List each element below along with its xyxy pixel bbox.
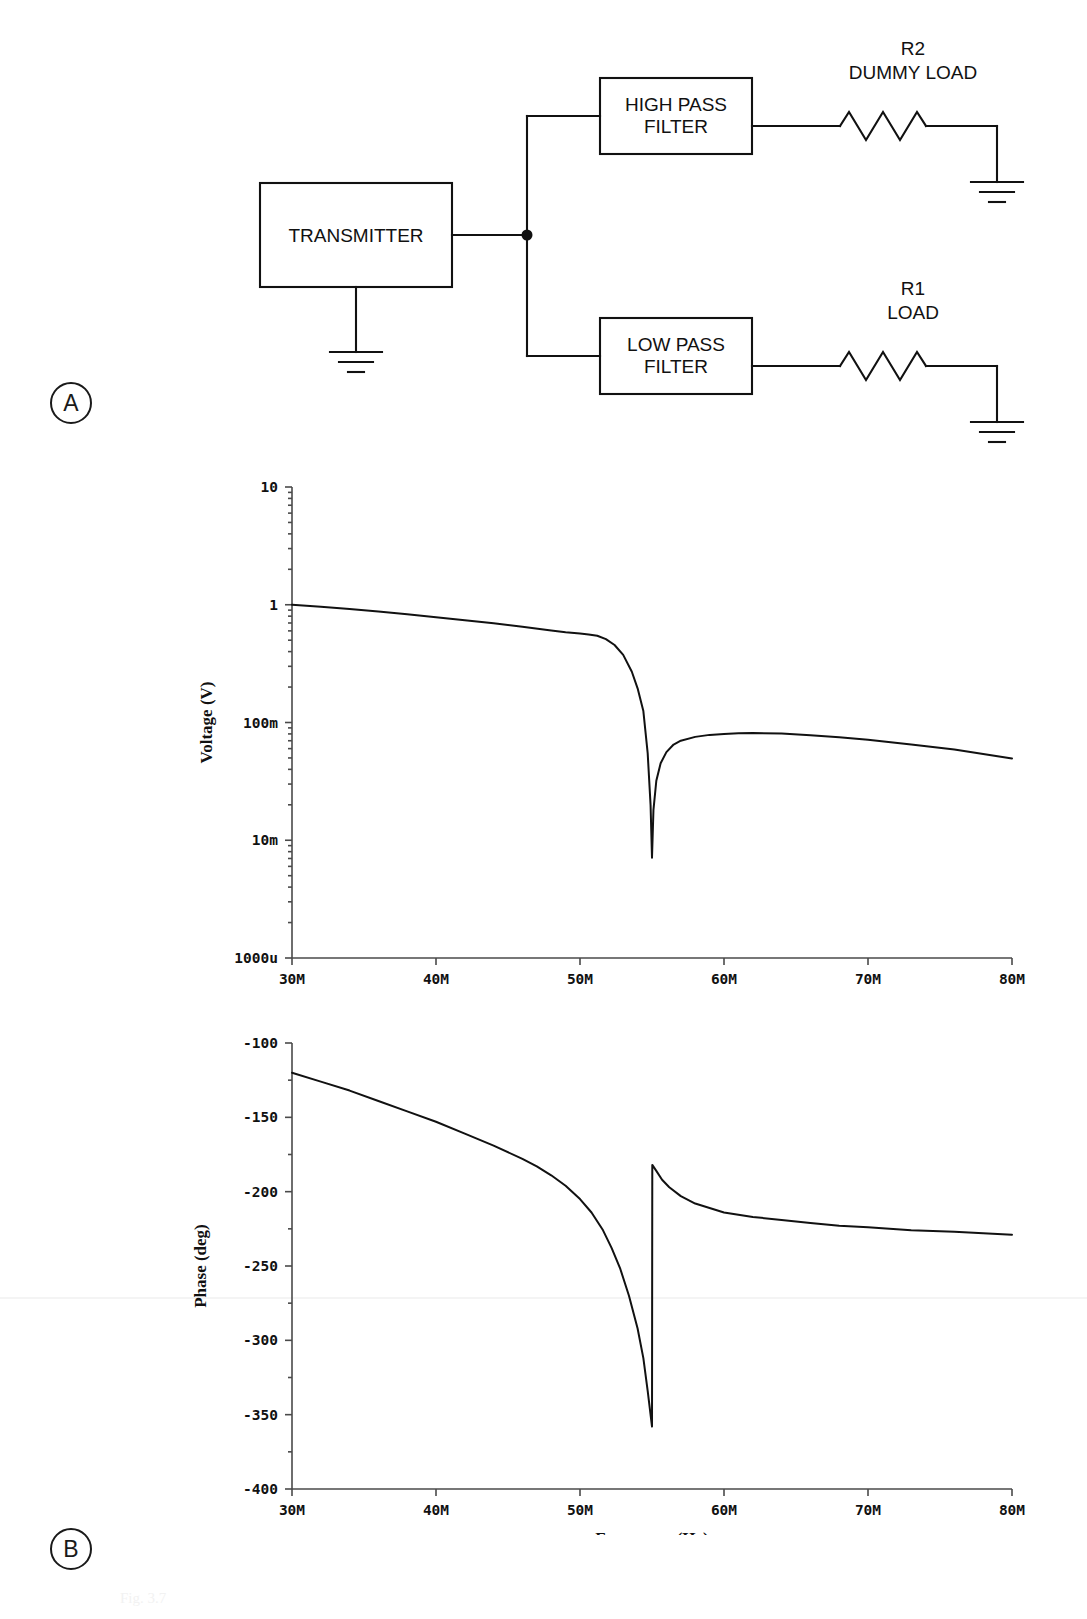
- y-tick-label: 1: [269, 597, 278, 613]
- data-curve-voltage: [292, 605, 1012, 858]
- panel-label-a: A: [50, 382, 92, 424]
- x-tick-label: 40M: [423, 971, 449, 987]
- r1-ground-symbol: [971, 422, 1023, 442]
- r1-designator-label: R1: [823, 278, 1003, 300]
- transmitter-ground-symbol: [330, 352, 382, 372]
- r1-resistor-symbol: [840, 352, 926, 380]
- figure-page: TRANSMITTER HIGH PASSFILTER LOW PASSFILT…: [0, 0, 1087, 1619]
- high-pass-filter-label: HIGH PASSFILTER: [600, 94, 752, 139]
- y-tick-label: -150: [243, 1109, 278, 1125]
- x-tick-label: 70M: [855, 971, 881, 987]
- r2-designator-label: R2: [823, 38, 1003, 60]
- x-tick-label: 80M: [999, 971, 1025, 987]
- data-curve-phase: [292, 1073, 1012, 1427]
- y-tick-label: 100m: [243, 715, 278, 731]
- y-tick-label: -400: [243, 1481, 278, 1497]
- y-tick-label: -350: [243, 1407, 278, 1423]
- voltage-plot-panel: 101100m10m1000u30M40M50M60M70M80MFrequen…: [0, 455, 1087, 1000]
- low-pass-filter-label: LOW PASSFILTER: [600, 334, 752, 379]
- x-tick-label: 50M: [567, 971, 593, 987]
- r2-ground-symbol: [971, 182, 1023, 202]
- transmitter-label: TRANSMITTER: [260, 225, 452, 247]
- x-tick-label: 50M: [567, 1502, 593, 1518]
- y-tick-label: 1000u: [234, 950, 278, 966]
- voltage-plot-svg: 101100m10m1000u30M40M50M60M70M80MFrequen…: [0, 455, 1087, 1000]
- x-tick-label: 60M: [711, 971, 737, 987]
- r2-resistor-symbol: [840, 112, 926, 140]
- phase-plot-svg: -100-150-200-250-300-350-40030M40M50M60M…: [0, 995, 1087, 1535]
- y-axis-title: Voltage (V): [197, 682, 216, 764]
- y-tick-label: -250: [243, 1258, 278, 1274]
- y-tick-label: 10m: [252, 832, 278, 848]
- y-tick-label: 10: [261, 479, 278, 495]
- y-tick-label: -200: [243, 1184, 278, 1200]
- y-tick-label: -100: [243, 1035, 278, 1051]
- x-tick-label: 30M: [279, 971, 305, 987]
- figure-caption: Fig. 3.7: [120, 1590, 920, 1607]
- x-axis-title: Frequency (Hz): [595, 1529, 708, 1535]
- panel-label-b: B: [50, 1528, 92, 1570]
- phase-plot-panel: -100-150-200-250-300-350-40030M40M50M60M…: [0, 995, 1087, 1535]
- y-axis-title: Phase (deg): [191, 1224, 210, 1308]
- x-tick-label: 70M: [855, 1502, 881, 1518]
- r1-name-label: LOAD: [823, 302, 1003, 324]
- x-tick-label: 80M: [999, 1502, 1025, 1518]
- x-tick-label: 40M: [423, 1502, 449, 1518]
- signal-split-node-dot: [522, 230, 533, 241]
- y-tick-label: -300: [243, 1332, 278, 1348]
- x-tick-label: 30M: [279, 1502, 305, 1518]
- r2-name-label: DUMMY LOAD: [823, 62, 1003, 84]
- block-diagram-panel: TRANSMITTER HIGH PASSFILTER LOW PASSFILT…: [0, 0, 1087, 470]
- x-tick-label: 60M: [711, 1502, 737, 1518]
